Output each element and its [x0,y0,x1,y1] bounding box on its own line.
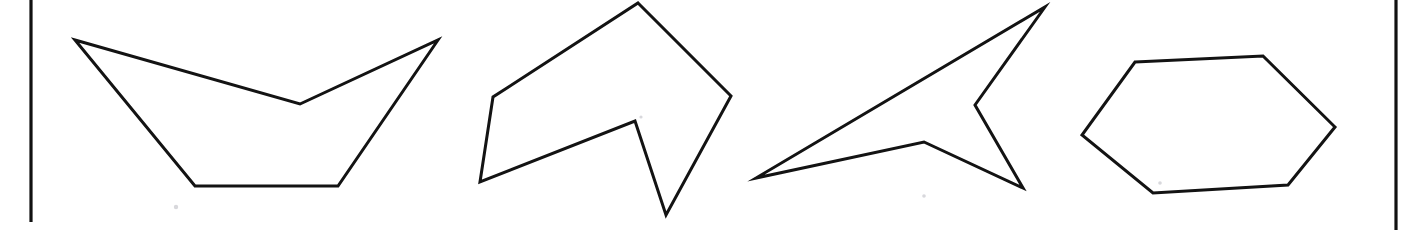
scan-speck [922,194,926,198]
scan-speck [174,205,178,209]
figure-canvas [0,0,1406,230]
polygon-figure-svg [0,0,1406,230]
scan-speck [639,115,642,118]
scan-speck [1158,181,1162,185]
